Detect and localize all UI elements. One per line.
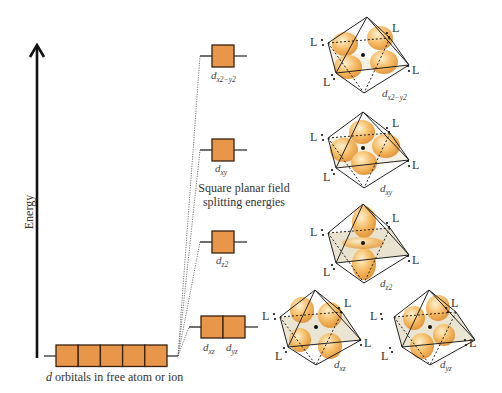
ligand-label: L bbox=[370, 309, 377, 323]
orbital-box bbox=[212, 231, 234, 253]
ligand-label: L bbox=[310, 130, 317, 144]
octahedron-label-dx2-y2: dx2−y2 bbox=[382, 87, 407, 102]
ligand-label: L bbox=[412, 158, 419, 172]
octahedron-dxy: L L L L dxy bbox=[310, 112, 419, 197]
orbital-box bbox=[78, 345, 100, 367]
level-dx2-y2: dx2−y2 bbox=[200, 45, 247, 84]
octahedron-dxz: L L L L dxz bbox=[262, 290, 371, 373]
energy-axis-label: Energy bbox=[22, 195, 36, 229]
ligand-label: L bbox=[392, 116, 399, 130]
orbital-box bbox=[201, 316, 223, 338]
ligand-label: L bbox=[392, 21, 399, 35]
level-dz2: dz2 bbox=[200, 231, 247, 269]
ligand-label: L bbox=[323, 265, 330, 279]
free-ion-caption: d orbitals in free atom or ion bbox=[46, 370, 183, 384]
orbital-box bbox=[212, 45, 234, 67]
ligand-label: L bbox=[381, 349, 388, 363]
octahedron-dyz: L L L L dyz bbox=[370, 290, 476, 373]
level-label-dx2-y2: dx2−y2 bbox=[211, 69, 236, 84]
ligand-label: L bbox=[275, 349, 282, 363]
ligand-label: L bbox=[344, 296, 351, 310]
ligand-label: L bbox=[364, 336, 371, 350]
level-dxy: dxy bbox=[200, 139, 247, 177]
octahedron-label-dz2: dz2 bbox=[380, 277, 392, 292]
octahedron-label-dxz: dxz bbox=[334, 358, 346, 373]
octahedron-label-dyz: dyz bbox=[440, 358, 452, 373]
level-label-dxy: dxy bbox=[215, 162, 228, 177]
octahedron-dz2: L L L L dz2 bbox=[310, 204, 419, 292]
orbital-box bbox=[123, 345, 145, 367]
level-label-dz2: dz2 bbox=[216, 254, 228, 269]
ligand-label: L bbox=[323, 170, 330, 184]
ligand-label: L bbox=[392, 211, 399, 225]
free-ion-orbitals bbox=[44, 345, 178, 367]
ligand-label: L bbox=[323, 75, 330, 89]
ligand-label: L bbox=[310, 225, 317, 239]
orbital-box bbox=[223, 316, 245, 338]
ligand-label: L bbox=[310, 35, 317, 49]
orbital-box bbox=[100, 345, 122, 367]
orbital-box bbox=[56, 345, 78, 367]
octahedron-dx2-y2: L L L L dx2−y2 bbox=[310, 17, 419, 102]
orbital-box bbox=[145, 345, 167, 367]
level-label-dxz: dxz bbox=[203, 341, 215, 356]
split-caption-line2: splitting energies bbox=[203, 195, 285, 209]
ligand-label: L bbox=[412, 63, 419, 77]
ligand-label: L bbox=[469, 336, 476, 350]
level-label-dyz: dyz bbox=[226, 341, 238, 356]
splitting-diagram: Energy d orbitals in free atom or ion dx… bbox=[0, 0, 502, 393]
ligand-label: L bbox=[451, 296, 458, 310]
level-dxz-dyz: dxz dyz bbox=[189, 316, 258, 356]
orbital-box bbox=[212, 139, 234, 161]
ligand-label: L bbox=[262, 309, 269, 323]
ligand-label: L bbox=[412, 253, 419, 267]
octahedron-label-dxy: dxy bbox=[380, 182, 393, 197]
split-caption-line1: Square planar field bbox=[198, 181, 289, 195]
